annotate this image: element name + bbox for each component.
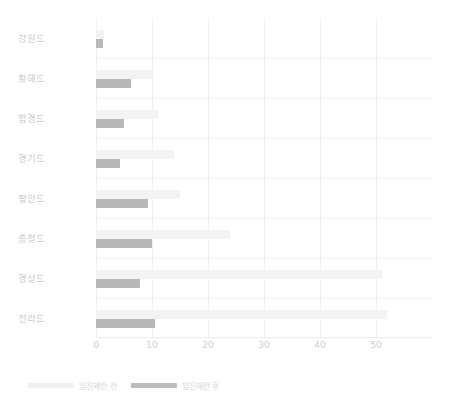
bar-before — [96, 230, 230, 239]
legend-label: 임진왜란 전 — [79, 380, 117, 391]
legend-swatch-after — [131, 383, 177, 388]
bar-after — [96, 199, 148, 208]
y-axis-category-labels: 강원도황해도함경도경기도평안도충청도경상도전라도 — [18, 18, 96, 338]
chart-legend: 임진왜란 전임진왜란 후 — [28, 380, 219, 391]
bar-group — [96, 58, 432, 98]
y-axis-label: 황해도 — [18, 71, 96, 85]
bar-after — [96, 79, 131, 88]
x-axis-tick-label: 50 — [370, 340, 381, 350]
bar-group — [96, 18, 432, 58]
y-axis-label: 전라도 — [18, 311, 96, 325]
bar-before — [96, 190, 180, 199]
x-axis-tick-label: 10 — [146, 340, 157, 350]
bar-group — [96, 98, 432, 138]
x-axis-tick-label: 30 — [258, 340, 269, 350]
bar-after — [96, 279, 140, 288]
legend-swatch-before — [28, 383, 74, 388]
bar-before — [96, 110, 158, 119]
bar-group — [96, 138, 432, 178]
bar-after — [96, 239, 152, 248]
bar-before — [96, 70, 152, 79]
plot-area — [96, 18, 432, 338]
bar-before — [96, 270, 382, 279]
bar-before — [96, 150, 174, 159]
bar-after — [96, 159, 120, 168]
bar-after — [96, 39, 103, 48]
bar-after — [96, 319, 155, 328]
y-axis-label: 경상도 — [18, 271, 96, 285]
legend-item[interactable]: 임진왜란 전 — [28, 380, 117, 391]
x-axis-tick-label: 40 — [314, 340, 325, 350]
legend-label: 임진왜란 후 — [182, 380, 220, 391]
y-axis-label: 함경도 — [18, 111, 96, 125]
bar-group — [96, 178, 432, 218]
bar-group — [96, 218, 432, 258]
bar-before — [96, 30, 104, 39]
bar-group — [96, 258, 432, 298]
x-axis-tick-labels: 01020304050 — [96, 340, 432, 358]
y-axis-label: 평안도 — [18, 191, 96, 205]
x-axis-tick-label: 0 — [93, 340, 99, 350]
chart-figure: 강원도황해도함경도경기도평안도충청도경상도전라도 01020304050 임진왜… — [0, 0, 450, 401]
bar-after — [96, 119, 124, 128]
y-axis-label: 경기도 — [18, 151, 96, 165]
y-axis-label: 충청도 — [18, 231, 96, 245]
y-axis-label: 강원도 — [18, 31, 96, 45]
bar-before — [96, 310, 387, 319]
legend-item[interactable]: 임진왜란 후 — [131, 380, 220, 391]
bar-group — [96, 298, 432, 338]
x-axis-tick-label: 20 — [202, 340, 213, 350]
